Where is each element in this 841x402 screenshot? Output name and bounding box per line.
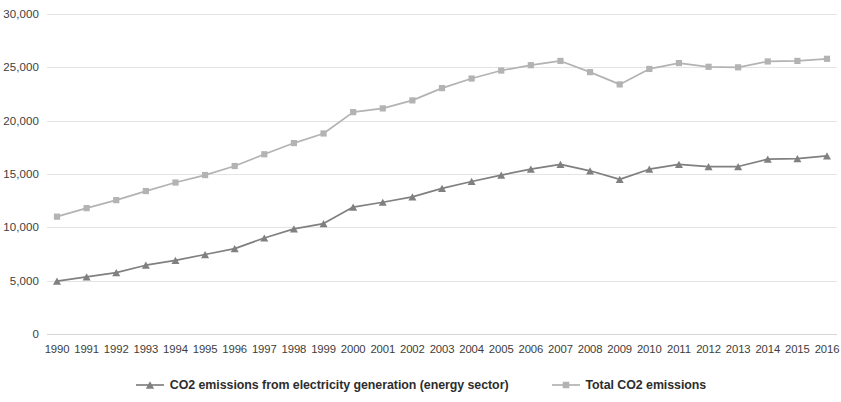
chart-legend: CO2 emissions from electricity generatio… [0, 378, 841, 392]
x-axis-tick-label: 2008 [578, 343, 603, 355]
x-axis-tick-label: 1995 [193, 343, 218, 355]
data-point-marker [617, 81, 623, 87]
x-axis-tick-label: 1994 [163, 343, 188, 355]
y-axis-tick-label: 25,000 [3, 61, 39, 73]
data-point-marker [765, 58, 771, 64]
data-point-marker [676, 60, 682, 66]
data-point-marker [409, 97, 415, 103]
data-point-marker [587, 69, 593, 75]
x-axis-tick-label: 2011 [667, 343, 691, 355]
y-axis-tick-label: 5,000 [10, 275, 39, 287]
data-point-marker [646, 66, 652, 72]
y-axis-tick-label: 10,000 [3, 221, 39, 233]
data-point-marker [705, 64, 711, 70]
data-point-marker [143, 188, 149, 194]
x-axis-tick-label: 1997 [252, 343, 277, 355]
series-layer [47, 14, 837, 334]
y-axis-tick-label: 20,000 [3, 115, 39, 127]
x-axis-tick-label: 1999 [311, 343, 336, 355]
x-axis-tick-label: 2013 [726, 343, 751, 355]
x-axis-tick-label: 1990 [45, 343, 70, 355]
data-point-marker [172, 179, 178, 185]
data-point-marker [350, 109, 356, 115]
x-axis-tick-label: 1991 [74, 343, 99, 355]
series-2 [54, 56, 830, 220]
data-point-marker [202, 172, 208, 178]
y-axis-tick-label: 15,000 [3, 168, 39, 180]
x-axis-tick-label: 2006 [518, 343, 543, 355]
plot-area [47, 14, 837, 334]
data-point-marker [439, 85, 445, 91]
x-axis-tick-label: 2007 [548, 343, 573, 355]
x-axis-tick-labels: 1990199119921993199419951996199719981999… [47, 343, 837, 361]
y-axis-tick-label: 30,000 [3, 8, 39, 20]
data-point-marker [498, 67, 504, 73]
legend-marker-icon [551, 378, 581, 392]
x-axis-tick-label: 2002 [400, 343, 425, 355]
x-axis-tick-label: 2005 [489, 343, 514, 355]
legend-label: CO2 emissions from electricity generatio… [170, 378, 509, 392]
legend-item[interactable]: Total CO2 emissions [551, 378, 707, 392]
data-point-marker [794, 58, 800, 64]
x-axis-tick-label: 1993 [133, 343, 158, 355]
series-1 [53, 152, 831, 285]
x-axis-tick-label: 2001 [370, 343, 395, 355]
co2-emissions-line-chart: 30,00025,00020,00015,00010,0005,0000 199… [0, 0, 841, 402]
x-axis-tick-label: 2009 [607, 343, 632, 355]
legend-label: Total CO2 emissions [586, 378, 707, 392]
x-axis-tick-label: 2000 [341, 343, 366, 355]
x-axis-tick-label: 1992 [104, 343, 129, 355]
x-axis-tick-label: 2003 [430, 343, 455, 355]
data-point-marker [557, 58, 563, 64]
data-point-marker [84, 205, 90, 211]
data-point-marker [735, 64, 741, 70]
data-point-marker [320, 130, 326, 136]
data-point-marker [232, 163, 238, 169]
data-point-marker [113, 197, 119, 203]
data-point-marker [824, 56, 830, 62]
x-axis-tick-label: 2015 [785, 343, 810, 355]
data-point-marker [261, 151, 267, 157]
series-line [57, 59, 827, 217]
legend-item[interactable]: CO2 emissions from electricity generatio… [135, 378, 509, 392]
y-axis-tick-label: 0 [33, 328, 40, 340]
x-axis-tick-label: 2014 [755, 343, 780, 355]
x-axis-tick-label: 1998 [282, 343, 307, 355]
data-point-marker [469, 75, 475, 81]
x-axis-tick-label: 1996 [222, 343, 247, 355]
data-point-marker [54, 214, 60, 220]
x-axis-tick-label: 2010 [637, 343, 662, 355]
y-axis-tick-labels: 30,00025,00020,00015,00010,0005,0000 [0, 0, 47, 402]
x-axis-tick-label: 2012 [696, 343, 721, 355]
legend-marker-icon [135, 378, 165, 392]
data-point-marker [380, 105, 386, 111]
data-point-marker [291, 140, 297, 146]
gridline [47, 334, 837, 335]
data-point-marker [528, 62, 534, 68]
x-axis-tick-label: 2016 [815, 343, 840, 355]
x-axis-tick-label: 2004 [459, 343, 484, 355]
